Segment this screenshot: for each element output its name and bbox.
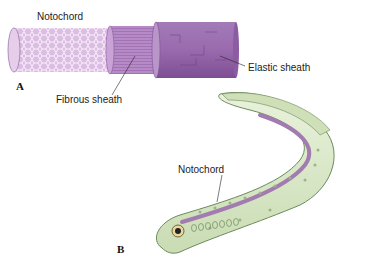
label-fibrous-sheath: Fibrous sheath [56,94,122,105]
panel-letter-b: B [117,243,124,255]
panel-letter-a: A [16,80,24,92]
notochord-cylinder [8,22,245,95]
label-notochord-a: Notochord [37,11,83,22]
diagram-artwork [0,0,367,265]
label-elastic-sheath: Elastic sheath [248,62,310,73]
label-notochord-b: Notochord [178,164,224,175]
notochord-diagram: Notochord Fibrous sheath Elastic sheath … [0,0,367,265]
